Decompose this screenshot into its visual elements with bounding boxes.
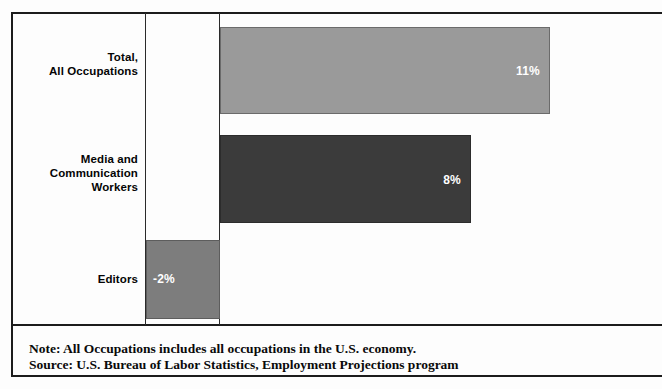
- bar-value-label-editors: -2%: [153, 272, 175, 286]
- footer-note: Note: All Occupations includes all occup…: [29, 341, 662, 357]
- category-label-line: All Occupations: [14, 64, 138, 78]
- chart-footer: Note: All Occupations includes all occup…: [11, 330, 662, 377]
- category-label-line: Communication: [14, 166, 138, 180]
- category-label-line: Total,: [14, 50, 138, 64]
- bar-media-communication-workers: 8%: [220, 135, 471, 223]
- bar-editors: -2%: [146, 240, 220, 319]
- bar-chart-figure: Total, All Occupations Media and Communi…: [0, 0, 662, 389]
- category-label-line: Media and: [14, 152, 138, 166]
- category-label-line: Workers: [14, 180, 138, 194]
- bar-value-label-media-communication-workers: 8%: [443, 173, 461, 187]
- bar-value-label-total-all-occupations: 11%: [516, 64, 540, 78]
- bar-total-all-occupations: 11%: [220, 27, 550, 114]
- category-label-line: Editors: [14, 272, 138, 286]
- category-label-editors: Editors: [14, 272, 138, 286]
- category-label-media-communication-workers: Media and Communication Workers: [14, 152, 138, 194]
- footer-source: Source: U.S. Bureau of Labor Statistics,…: [29, 357, 662, 373]
- category-label-total-all-occupations: Total, All Occupations: [14, 50, 138, 78]
